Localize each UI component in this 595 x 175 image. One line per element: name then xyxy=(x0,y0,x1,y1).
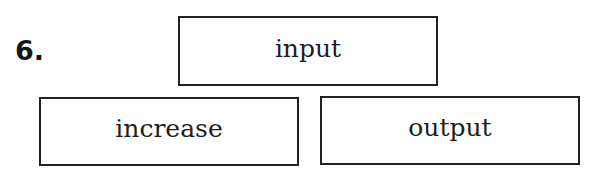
word-box-increase: increase xyxy=(39,97,299,166)
word-box-label: input xyxy=(275,36,341,67)
word-box-label: increase xyxy=(115,116,222,147)
word-box-label: output xyxy=(408,115,491,146)
word-box-input: input xyxy=(178,16,438,86)
question-number: 6. xyxy=(15,36,44,66)
word-box-output: output xyxy=(320,96,580,165)
